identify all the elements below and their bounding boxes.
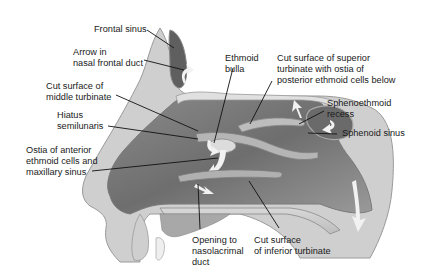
- label-arrow-nasal-frontal-duct: Arrow in nasal frontal duct: [73, 47, 143, 69]
- label-frontal-sinus: Frontal sinus: [94, 24, 147, 35]
- label-opening-nasolacrimal-duct: Opening to nasolacrimal duct: [192, 235, 244, 268]
- nasal-cavity-diagram: Frontal sinus Arrow in nasal frontal duc…: [0, 0, 427, 278]
- label-sphenoethmoid-recess: Sphenoethmoid recess: [327, 98, 391, 120]
- label-hiatus-semilunaris: Hiatus semilunaris: [57, 110, 103, 132]
- label-ethmoid-bulla: Ethmoid bulla: [225, 53, 259, 75]
- incisor-tooth: [156, 238, 165, 260]
- label-cut-surface-middle-turbinate: Cut surface of middle turbinate: [46, 81, 111, 103]
- maxilla-spongy: [160, 214, 230, 237]
- label-sphenoid-sinus: Sphenoid sinus: [342, 128, 405, 139]
- label-cut-surface-superior-turbinate: Cut surface of superior turbinate with o…: [277, 53, 395, 86]
- label-cut-surface-inferior-turbinate: Cut surface of inferior turbinate: [254, 235, 331, 257]
- label-ostia-anterior-ethmoid: Ostia of anterior ethmoid cells and maxi…: [26, 145, 98, 178]
